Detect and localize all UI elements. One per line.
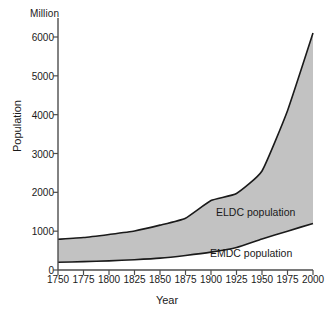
x-tick-label: 1800	[98, 274, 120, 285]
x-tick-label: 1950	[251, 274, 273, 285]
eldc-area-band	[58, 33, 313, 262]
emdc-series-label: EMDC population	[210, 247, 292, 259]
x-tick-label: 1925	[225, 274, 247, 285]
x-tick-label: 1975	[276, 274, 298, 285]
x-tick-label: 1875	[174, 274, 196, 285]
x-tick-label: 1825	[123, 274, 145, 285]
x-tick-label: 1900	[200, 274, 222, 285]
x-tick-label: 2000	[302, 274, 324, 285]
x-axis-title: Year	[0, 294, 334, 306]
x-tick-label: 1775	[72, 274, 94, 285]
population-growth-chart: Million Population 010002000300040005000…	[0, 0, 334, 314]
x-tick-label: 1850	[149, 274, 171, 285]
y-tick-marks	[53, 37, 58, 270]
x-tick-label: 1750	[47, 274, 69, 285]
area-bands	[58, 33, 313, 270]
eldc-series-label: ELDC population	[216, 206, 295, 218]
plot-area	[0, 0, 334, 314]
